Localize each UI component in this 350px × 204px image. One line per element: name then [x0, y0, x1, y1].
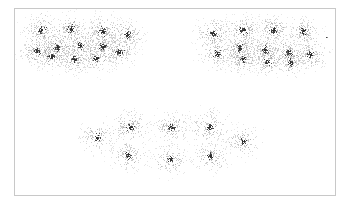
- scatter-plot-canvas: [15, 9, 335, 195]
- scatter-plot-screenshot: [0, 0, 350, 204]
- plot-frame: [14, 8, 336, 196]
